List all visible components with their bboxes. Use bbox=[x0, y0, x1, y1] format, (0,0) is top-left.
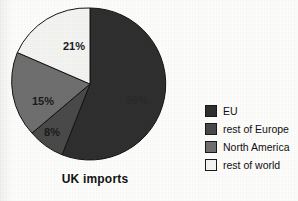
legend-item-eu: EU bbox=[205, 102, 298, 120]
slice-label-north-america: 15% bbox=[32, 95, 54, 107]
slice-label-rest-of-world: 21% bbox=[63, 40, 85, 52]
legend-label-north-america: North America bbox=[223, 141, 290, 153]
legend-label-eu: EU bbox=[223, 105, 238, 117]
legend-label-rest-of-europe: rest of Europe bbox=[223, 123, 289, 135]
legend-item-north-america: North America bbox=[205, 138, 298, 156]
slice-label-rest-of-europe: 8% bbox=[44, 126, 60, 138]
legend-item-rest-of-world: rest of world bbox=[205, 156, 298, 174]
slice-label-eu: 56% bbox=[126, 94, 148, 106]
legend-swatch-rest-of-world bbox=[205, 159, 217, 171]
pie-chart-svg: 56% 8% 15% 21% bbox=[0, 0, 190, 172]
legend-swatch-north-america bbox=[205, 141, 217, 153]
pie-chart: 56% 8% 15% 21% UK imports bbox=[0, 0, 190, 201]
legend-item-rest-of-europe: rest of Europe bbox=[205, 120, 298, 138]
legend-swatch-eu bbox=[205, 105, 217, 117]
chart-title: UK imports bbox=[0, 172, 190, 186]
pie-chart-figure: 56% 8% 15% 21% UK imports EU rest of Eur… bbox=[0, 0, 298, 201]
legend: EU rest of Europe North America rest of … bbox=[205, 102, 298, 174]
legend-label-rest-of-world: rest of world bbox=[223, 159, 280, 171]
legend-swatch-rest-of-europe bbox=[205, 123, 217, 135]
